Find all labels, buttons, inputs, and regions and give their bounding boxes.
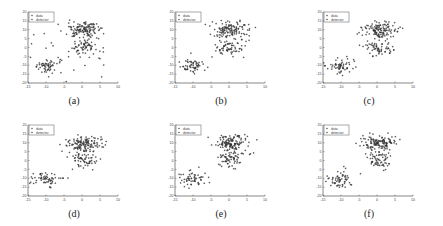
x-tick-label: -5 xyxy=(62,85,65,89)
y-tick-label: 0 xyxy=(172,46,174,50)
legend-label-detector: detector xyxy=(331,131,344,135)
legend-label-detector: detector xyxy=(36,131,49,135)
x-tick-label: 5 xyxy=(99,85,101,89)
y-tick-label: -10 xyxy=(168,63,173,67)
y-tick-label: 15 xyxy=(23,19,27,23)
x-tick-label: 5 xyxy=(394,85,396,89)
data-points xyxy=(30,19,105,82)
x-tick-label: 10 xyxy=(263,85,267,89)
y-tick-label: 10 xyxy=(170,141,174,145)
panel-caption: (c) xyxy=(295,95,443,106)
x-tick-label: -5 xyxy=(209,198,212,202)
y-tick-label: -10 xyxy=(21,176,26,180)
y-tick-label: 10 xyxy=(23,141,27,145)
x-tick-label: 0 xyxy=(376,85,378,89)
panel-caption: (d) xyxy=(0,208,148,219)
x-tick-label: -15 xyxy=(25,198,30,202)
y-tick-label: 10 xyxy=(318,28,322,32)
y-tick-label: 5 xyxy=(25,150,27,154)
y-tick-label: 5 xyxy=(172,37,174,41)
legend: datadetector xyxy=(29,12,54,22)
x-tick-label: -10 xyxy=(190,85,195,89)
legend-label-detector: detector xyxy=(36,18,49,22)
y-tick-label: -15 xyxy=(316,72,321,76)
x-tick-label: 10 xyxy=(263,198,267,202)
y-tick-label: -20 xyxy=(168,194,173,198)
y-tick-label: -20 xyxy=(21,81,26,85)
y-tick-label: 20 xyxy=(170,123,174,127)
x-tick-label: -10 xyxy=(43,198,48,202)
x-tick-label: -10 xyxy=(43,85,48,89)
x-tick-label: 5 xyxy=(246,198,248,202)
x-tick-label: -10 xyxy=(338,198,343,202)
legend: datadetector xyxy=(324,12,349,22)
y-tick-label: -5 xyxy=(318,168,321,172)
x-tick-label: -15 xyxy=(25,85,30,89)
y-tick-label: 0 xyxy=(320,159,322,163)
scatter-panel-d: -15-10-50510-20-15-10-505101520datadetec… xyxy=(0,113,148,226)
y-tick-label: 15 xyxy=(170,132,174,136)
x-tick-label: -5 xyxy=(357,198,360,202)
y-tick-label: 0 xyxy=(320,46,322,50)
data-points xyxy=(29,134,107,188)
x-tick-label: 5 xyxy=(99,198,101,202)
x-tick-label: -5 xyxy=(357,85,360,89)
y-tick-label: -15 xyxy=(168,72,173,76)
y-tick-label: 15 xyxy=(23,132,27,136)
y-tick-label: -20 xyxy=(168,81,173,85)
y-tick-label: 20 xyxy=(170,10,174,14)
y-tick-label: -15 xyxy=(21,72,26,76)
x-tick-label: -15 xyxy=(172,85,177,89)
y-tick-label: -20 xyxy=(21,194,26,198)
y-tick-label: 5 xyxy=(25,37,27,41)
legend: datadetector xyxy=(176,125,201,135)
scatter-panel-b: -15-10-50510-20-15-10-505101520datadetec… xyxy=(147,0,295,113)
y-tick-label: -15 xyxy=(316,185,321,189)
legend-label-detector: detector xyxy=(331,18,344,22)
y-tick-label: 15 xyxy=(170,19,174,23)
y-tick-label: -20 xyxy=(316,81,321,85)
y-tick-label: -5 xyxy=(318,55,321,59)
data-points xyxy=(325,132,401,188)
legend: datadetector xyxy=(176,12,201,22)
x-tick-label: 10 xyxy=(411,198,415,202)
y-tick-label: 20 xyxy=(23,123,27,127)
y-tick-label: 10 xyxy=(170,28,174,32)
y-tick-label: 20 xyxy=(318,10,322,14)
y-tick-label: 10 xyxy=(23,28,27,32)
x-tick-label: -10 xyxy=(338,85,343,89)
y-tick-label: 5 xyxy=(320,150,322,154)
y-tick-label: -20 xyxy=(316,194,321,198)
panel-caption: (e) xyxy=(147,208,295,219)
y-tick-label: -5 xyxy=(170,168,173,172)
panel-caption: (a) xyxy=(0,95,148,106)
x-tick-label: 5 xyxy=(246,85,248,89)
x-tick-label: 0 xyxy=(81,198,83,202)
y-tick-label: -10 xyxy=(316,176,321,180)
x-tick-label: 10 xyxy=(116,198,120,202)
y-tick-label: -5 xyxy=(23,168,26,172)
y-tick-label: -15 xyxy=(21,185,26,189)
legend-label-detector: detector xyxy=(183,131,196,135)
y-tick-label: 0 xyxy=(25,46,27,50)
y-tick-label: 20 xyxy=(23,10,27,14)
x-tick-label: -5 xyxy=(62,198,65,202)
x-tick-label: -15 xyxy=(320,198,325,202)
y-tick-label: -10 xyxy=(316,63,321,67)
y-tick-label: 5 xyxy=(320,37,322,41)
y-tick-label: -15 xyxy=(168,185,173,189)
scatter-panel-f: -15-10-50510-20-15-10-505101520datadetec… xyxy=(295,113,443,226)
x-tick-label: 0 xyxy=(376,198,378,202)
y-tick-label: 0 xyxy=(25,159,27,163)
y-tick-label: 5 xyxy=(172,150,174,154)
legend: datadetector xyxy=(324,125,349,135)
panel-caption: (f) xyxy=(295,208,443,219)
y-tick-label: 15 xyxy=(318,19,322,23)
scatter-panel-e: -15-10-50510-20-15-10-505101520datadetec… xyxy=(147,113,295,226)
y-tick-label: 10 xyxy=(318,141,322,145)
panel-caption: (b) xyxy=(147,95,295,106)
y-tick-label: 20 xyxy=(318,123,322,127)
y-tick-label: -10 xyxy=(168,176,173,180)
y-tick-label: -5 xyxy=(23,55,26,59)
legend-label-detector: detector xyxy=(183,18,196,22)
